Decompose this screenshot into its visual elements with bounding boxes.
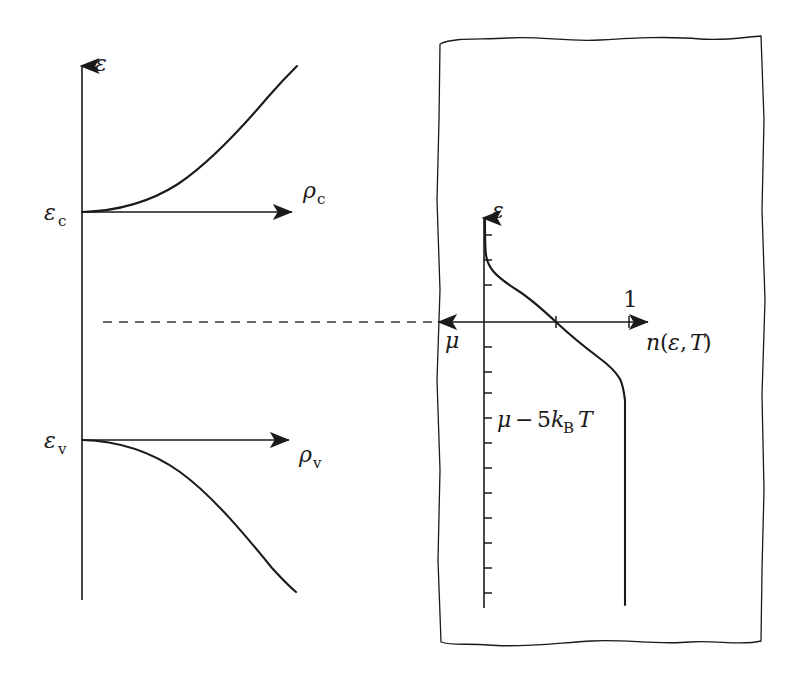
diagram-svg: ε ε c ρ c ε v ρ v [0, 0, 799, 676]
rho-v-subscript: v [312, 454, 322, 472]
occupation-arg-epsilon: ε [668, 330, 680, 355]
occupation-fn-symbol: n [646, 330, 660, 355]
reference-temperature-T: T [578, 407, 595, 432]
reference-boltzmann-subscript: B [563, 419, 574, 437]
occupation-close-paren: ) [703, 330, 712, 355]
hand-drawn-frame [437, 36, 765, 646]
occupation-axis-label: n ( ε , T ) [646, 330, 712, 355]
right-energy-axis-label: ε [492, 198, 504, 223]
epsilon-v-subscript: v [57, 440, 67, 458]
conduction-band-edge-label: ε c [44, 200, 66, 230]
rho-c-subscript: c [317, 190, 325, 208]
conduction-rho-axis-label: ρ c [302, 178, 325, 208]
fermi-dirac-panel: ε μ 1 n ( [437, 36, 765, 646]
reference-coefficient: 5 [537, 407, 551, 432]
epsilon-v-symbol: ε [44, 428, 56, 453]
reference-mu-symbol: μ [497, 407, 511, 432]
energy-axis-ticks [484, 235, 492, 593]
rho-v-symbol: ρ [298, 442, 312, 467]
density-of-states-panel: ε ε c ρ c ε v ρ v [44, 51, 432, 600]
reference-minus-sign: − [515, 407, 533, 432]
unit-occupancy-label: 1 [623, 286, 638, 312]
valence-band-edge-label: ε v [44, 428, 67, 458]
valence-rho-axis-label: ρ v [298, 442, 322, 472]
valence-dos-curve [82, 440, 296, 592]
epsilon-c-symbol: ε [44, 200, 56, 225]
epsilon-c-subscript: c [58, 212, 66, 230]
mu-label: μ [445, 328, 459, 353]
mu-minus-5kbt-label: μ − 5 k B T [497, 407, 595, 437]
rho-c-symbol: ρ [302, 178, 316, 203]
left-energy-axis-label: ε [95, 51, 107, 76]
figure-canvas: ε ε c ρ c ε v ρ v [0, 0, 799, 676]
conduction-dos-curve [82, 66, 297, 212]
occupation-comma: , [680, 330, 687, 355]
